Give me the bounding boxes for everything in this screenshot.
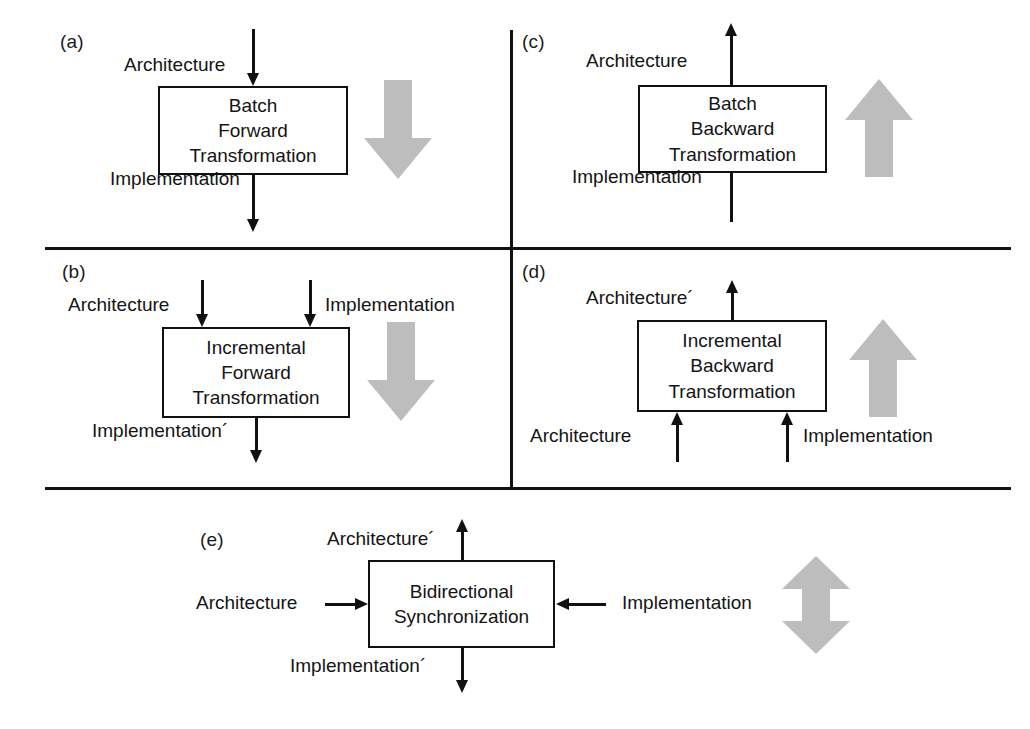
panel-e-process-box: Bidirectional Synchronization bbox=[368, 560, 555, 648]
panel-c-box-line-3: Transformation bbox=[669, 142, 796, 167]
panel-b-input-arrow-1-head bbox=[196, 314, 208, 327]
panel-a-box-line-1: Batch bbox=[229, 93, 278, 118]
panel-e-output-label-architecture-prime: Architecture´ bbox=[327, 528, 435, 550]
panel-d-direction-block-arrow-up bbox=[847, 318, 919, 418]
panel-a-input-arrow-head bbox=[247, 73, 259, 86]
panel-c-box-line-2: Backward bbox=[691, 116, 774, 141]
panel-e-output-arrow-bottom-shaft bbox=[461, 647, 464, 681]
panel-d-input-arrow-1-shaft bbox=[676, 424, 679, 462]
panel-a-output-label-implementation: Implementation bbox=[110, 168, 240, 190]
panel-e-input-arrow-right-head bbox=[556, 598, 569, 610]
panel-a-box-line-3: Transformation bbox=[189, 143, 316, 168]
panel-b-input-label-implementation: Implementation bbox=[325, 294, 455, 316]
panel-d-output-arrow-shaft bbox=[731, 292, 734, 322]
panel-c-output-arrow-shaft bbox=[730, 35, 733, 87]
panel-d-process-box: Incremental Backward Transformation bbox=[637, 320, 827, 412]
panel-d-input-arrow-2-head bbox=[781, 412, 793, 425]
panel-c-direction-block-arrow-up bbox=[843, 78, 915, 178]
panel-d-output-label-architecture-prime: Architecture´ bbox=[586, 287, 694, 309]
panel-b-direction-block-arrow-down bbox=[365, 322, 437, 422]
panel-c-process-box: Batch Backward Transformation bbox=[638, 85, 827, 173]
divider-vertical bbox=[510, 30, 513, 488]
panel-e-direction-block-arrow-up-down bbox=[780, 555, 852, 655]
panel-d-box-line-2: Backward bbox=[690, 353, 773, 378]
panel-d-output-arrow-head bbox=[726, 280, 738, 293]
panel-e-output-arrow-bottom-head bbox=[456, 680, 468, 693]
panel-b-output-label-implementation-prime: Implementation´ bbox=[92, 420, 228, 442]
panel-c-input-arrow-shaft bbox=[730, 172, 733, 222]
panel-e-input-arrow-left-shaft bbox=[325, 603, 357, 606]
panel-e-input-label-architecture: Architecture bbox=[196, 592, 297, 614]
figure-canvas: (a) Architecture Batch Forward Transform… bbox=[0, 0, 1030, 729]
divider-horizontal-bottom bbox=[45, 487, 1011, 490]
panel-a-input-arrow-shaft bbox=[252, 29, 255, 74]
panel-a-output-arrow-shaft bbox=[252, 174, 255, 220]
panel-b-input-label-architecture: Architecture bbox=[68, 294, 169, 316]
panel-d-box-line-1: Incremental bbox=[682, 328, 781, 353]
panel-b-box-line-2: Forward bbox=[221, 360, 291, 385]
panel-c-box-line-1: Batch bbox=[708, 91, 757, 116]
panel-e-output-label-implementation-prime: Implementation´ bbox=[290, 655, 426, 677]
panel-d-box-line-3: Transformation bbox=[668, 379, 795, 404]
panel-b-output-arrow-shaft bbox=[255, 417, 258, 451]
panel-d-input-label-architecture: Architecture bbox=[530, 425, 631, 447]
panel-b-input-arrow-2-head bbox=[304, 314, 316, 327]
panel-e-box-line-2: Synchronization bbox=[394, 604, 529, 629]
panel-tag-c: (c) bbox=[522, 31, 545, 53]
panel-d-input-arrow-1-head bbox=[671, 412, 683, 425]
divider-horizontal-top bbox=[45, 247, 1011, 250]
panel-e-output-arrow-top-shaft bbox=[461, 531, 464, 561]
panel-c-output-label-architecture: Architecture bbox=[586, 50, 687, 72]
panel-a-input-label-architecture: Architecture bbox=[124, 54, 225, 76]
panel-tag-b: (b) bbox=[62, 261, 86, 283]
panel-c-output-arrow-head bbox=[725, 23, 737, 36]
panel-b-process-box: Incremental Forward Transformation bbox=[162, 327, 350, 418]
panel-tag-e: (e) bbox=[200, 529, 224, 551]
panel-e-input-label-implementation: Implementation bbox=[622, 592, 752, 614]
panel-a-box-line-2: Forward bbox=[218, 118, 288, 143]
panel-d-input-label-implementation: Implementation bbox=[803, 425, 933, 447]
panel-a-direction-block-arrow-down bbox=[362, 80, 434, 180]
panel-e-output-arrow-top-head bbox=[456, 519, 468, 532]
panel-a-output-arrow-head bbox=[247, 219, 259, 232]
panel-b-output-arrow-head bbox=[250, 450, 262, 463]
panel-tag-a: (a) bbox=[60, 31, 84, 53]
panel-tag-d: (d) bbox=[522, 261, 546, 283]
panel-d-input-arrow-2-shaft bbox=[786, 424, 789, 462]
panel-b-box-line-3: Transformation bbox=[192, 385, 319, 410]
panel-e-input-arrow-left-head bbox=[355, 598, 368, 610]
panel-c-input-label-implementation: Implementation bbox=[572, 166, 702, 188]
panel-b-box-line-1: Incremental bbox=[206, 335, 305, 360]
panel-a-process-box: Batch Forward Transformation bbox=[158, 86, 348, 175]
panel-e-box-line-1: Bidirectional bbox=[410, 579, 514, 604]
panel-e-input-arrow-right-shaft bbox=[568, 603, 606, 606]
